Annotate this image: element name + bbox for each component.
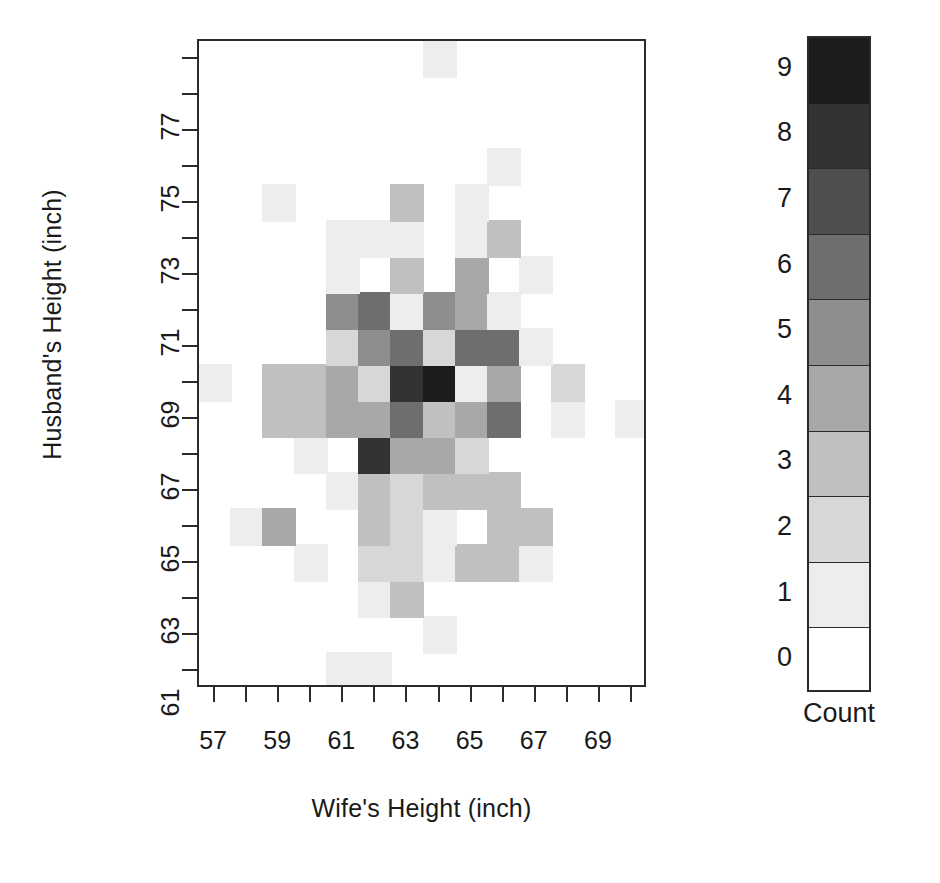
heatmap-cell: [326, 256, 360, 294]
colorbar-tick-label: 1: [742, 577, 792, 608]
heatmap-cell: [615, 400, 646, 438]
heatmap-cell: [390, 364, 424, 402]
heatmap-cell: [519, 508, 553, 546]
heatmap-cell: [423, 544, 457, 582]
heatmap-cell: [423, 616, 457, 654]
x-tick: [534, 687, 536, 702]
x-tick: [438, 687, 440, 702]
plot-area: [197, 39, 646, 687]
heatmap-cell: [423, 364, 457, 402]
heatmap-cell: [326, 472, 360, 510]
x-tick: [405, 687, 407, 702]
y-tick-label: 61: [156, 670, 185, 736]
y-tick-label: 67: [156, 454, 185, 520]
heatmap-cell: [358, 508, 392, 546]
colorbar-band: [809, 104, 869, 170]
y-tick-label: 73: [156, 238, 185, 304]
colorbar-tick-label: 0: [742, 642, 792, 673]
heatmap-figure: Husband's Height (inch) 6163656769717375…: [0, 0, 940, 883]
y-tick-label: 71: [156, 310, 185, 376]
colorbar-band: [809, 169, 869, 235]
heatmap-cell: [358, 652, 392, 687]
x-tick: [309, 687, 311, 702]
heatmap-cell: [519, 256, 553, 294]
heatmap-cell: [390, 508, 424, 546]
colorbar-band: [809, 497, 869, 563]
colorbar-band: [809, 300, 869, 366]
heatmap-cell: [326, 220, 360, 258]
x-tick-label: 61: [311, 726, 371, 755]
colorbar-title: Count: [747, 698, 931, 729]
y-tick-label: 69: [156, 382, 185, 448]
colorbar-tick-label: 9: [742, 52, 792, 83]
heatmap-cell: [390, 184, 424, 222]
heatmap-cell: [487, 364, 521, 402]
colorbar-tick-label: 5: [742, 314, 792, 345]
heatmap-cell: [294, 364, 328, 402]
heatmap-cell: [358, 472, 392, 510]
colorbar: [807, 36, 871, 692]
heatmap-cell: [390, 400, 424, 438]
heatmap-cell: [423, 436, 457, 474]
y-tick-label: 63: [156, 598, 185, 664]
heatmap-cell: [455, 292, 489, 330]
heatmap-cell: [358, 400, 392, 438]
heatmap-cell: [519, 328, 553, 366]
heatmap-cell: [390, 220, 424, 258]
heatmap-cell: [326, 400, 360, 438]
heatmap-cell: [487, 292, 521, 330]
heatmap-cell: [390, 472, 424, 510]
heatmap-cell: [455, 256, 489, 294]
heatmap-cell: [390, 292, 424, 330]
colorbar-tick-label: 3: [742, 445, 792, 476]
colorbar-band: [809, 628, 869, 692]
heatmap-cell: [423, 328, 457, 366]
heatmap-cell: [487, 328, 521, 366]
heatmap-cell: [358, 544, 392, 582]
x-tick: [341, 687, 343, 702]
x-tick-label: 67: [504, 726, 564, 755]
heatmap-cell: [423, 292, 457, 330]
heatmap-cell: [423, 472, 457, 510]
heatmap-cell: [487, 400, 521, 438]
heatmap-cell: [390, 256, 424, 294]
heatmap-cell: [455, 328, 489, 366]
heatmap-cell: [455, 184, 489, 222]
y-tick-label: 65: [156, 526, 185, 592]
heatmap-cell: [455, 436, 489, 474]
heatmap-cell: [358, 436, 392, 474]
heatmap-cell: [390, 580, 424, 618]
heatmap-cell: [519, 544, 553, 582]
colorbar-tick-label: 4: [742, 380, 792, 411]
colorbar-band: [809, 38, 869, 104]
heatmap-cell: [198, 364, 232, 402]
heatmap-cell: [294, 400, 328, 438]
heatmap-cell: [455, 544, 489, 582]
heatmap-cell: [487, 472, 521, 510]
x-tick-label: 65: [440, 726, 500, 755]
heatmap-cell: [358, 580, 392, 618]
x-tick: [566, 687, 568, 702]
heatmap-cell: [358, 220, 392, 258]
heatmap-cell: [390, 436, 424, 474]
x-tick-label: 57: [183, 726, 243, 755]
heatmap-cell: [262, 364, 296, 402]
x-tick: [245, 687, 247, 702]
heatmap-cell: [294, 436, 328, 474]
x-tick: [630, 687, 632, 702]
y-axis-title: Husband's Height (inch): [38, 165, 67, 485]
x-tick: [373, 687, 375, 702]
y-tick-label: 77: [156, 94, 185, 160]
x-tick: [277, 687, 279, 702]
heatmap-cell: [455, 400, 489, 438]
heatmap-cell: [487, 508, 521, 546]
heatmap-cell: [262, 400, 296, 438]
heatmap-cell: [455, 472, 489, 510]
heatmap-cell: [262, 184, 296, 222]
heatmap-cell: [423, 400, 457, 438]
y-tick: [182, 57, 197, 59]
x-tick-label: 69: [568, 726, 628, 755]
x-axis-title: Wife's Height (inch): [197, 794, 646, 823]
x-tick: [598, 687, 600, 702]
x-tick: [470, 687, 472, 702]
